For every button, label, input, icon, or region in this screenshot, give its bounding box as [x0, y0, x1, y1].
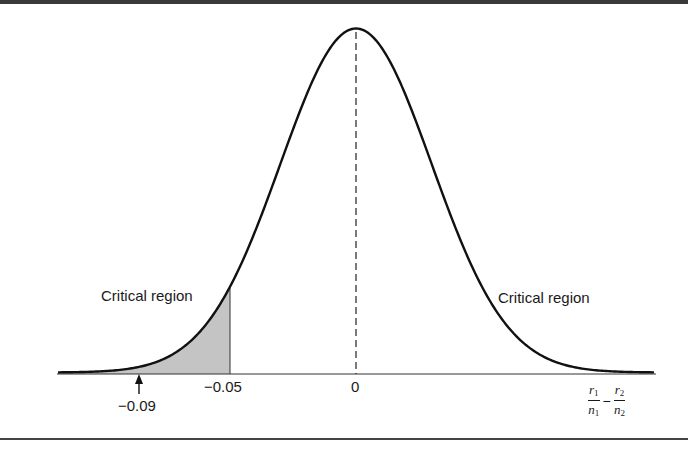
top-rule [0, 0, 688, 4]
x-axis-label: r1 n1 − r2 n2 [588, 383, 625, 418]
critical-region-left-label: Critical region [101, 288, 193, 303]
arrow-icon [135, 374, 143, 394]
tick-cutoff-label: −0.05 [204, 379, 242, 394]
bottom-rule [0, 438, 688, 440]
critical-region-right-label: Critical region [498, 290, 590, 305]
xlabel-subn1: 1 [595, 408, 600, 418]
xlabel-subn2: 2 [621, 408, 626, 418]
xlabel-minus: − [603, 393, 611, 409]
xlabel-sub2: 2 [620, 388, 625, 398]
tick-zero-label: 0 [351, 379, 359, 394]
xlabel-sub1: 1 [594, 388, 599, 398]
normal-distribution-figure [0, 0, 688, 450]
arrow-value-label: −0.09 [118, 398, 156, 413]
